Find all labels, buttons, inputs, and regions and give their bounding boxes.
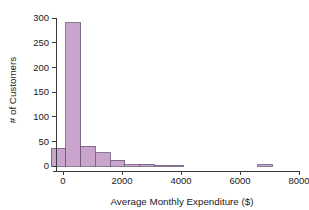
y-tick-label: 200 [33,62,49,73]
histogram-bar [140,164,155,166]
x-tick-label: 0 [60,175,65,186]
histogram-bar [81,146,96,166]
bar-series [51,23,272,166]
y-tick-label: 0 [44,160,49,171]
histogram-bar [125,165,140,166]
histogram-figure: 05010015020025030002000400060008000 Aver… [0,0,309,210]
x-tick-label: 6000 [229,175,250,186]
histogram-bar [66,23,81,166]
histogram-bar [95,153,110,166]
histogram-chart: 05010015020025030002000400060008000 Aver… [0,0,309,210]
x-tick-label: 2000 [111,175,132,186]
histogram-bar [51,148,66,166]
y-tick-label: 100 [33,111,49,122]
x-axis-title: Average Monthly Expenditure ($) [110,196,253,207]
y-tick-label: 300 [33,12,49,23]
histogram-bar [110,160,125,166]
axis-corner-connector [53,166,56,171]
y-tick-label: 50 [38,136,49,147]
y-tick-label: 250 [33,37,49,48]
histogram-bar [169,165,184,166]
x-tick-label: 8000 [288,175,309,186]
y-tick-label: 150 [33,86,49,97]
y-axis-title: # of Customers [7,57,18,124]
histogram-bar [258,165,273,166]
histogram-bar [154,165,169,166]
x-tick-label: 4000 [170,175,191,186]
